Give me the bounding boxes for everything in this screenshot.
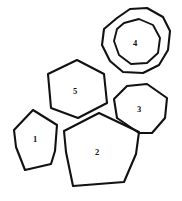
shape-label-2: 2 [95,147,99,157]
shapes-canvas: 1 2 3 4 5 [0,0,182,201]
shape-label-4: 4 [133,38,138,48]
shape-label-1: 1 [33,134,37,144]
shape-5-outline [48,60,107,118]
shape-label-3: 3 [137,104,141,114]
shapes-drawing: 1 2 3 4 5 [0,0,182,201]
shape-2-outline [64,113,139,186]
shape-label-5: 5 [73,86,77,96]
